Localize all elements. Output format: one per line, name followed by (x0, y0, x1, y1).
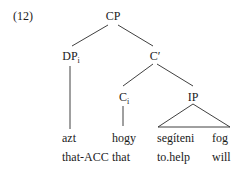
gloss-azt: that-ACC (62, 150, 109, 164)
node-ip-label: IP (188, 90, 199, 104)
word-hogy: hogy (112, 131, 136, 145)
branch-cp-dp (72, 25, 108, 46)
word-segiteni: segíteni (157, 131, 194, 145)
node-cp-label: CP (106, 9, 121, 23)
node-dp-label: DP (62, 49, 77, 63)
gloss-hogy: that (112, 150, 130, 164)
word-fog: fog (212, 131, 228, 145)
node-cbar-label: C′ (150, 49, 161, 63)
node-ip: IP (188, 90, 199, 104)
node-cbar: C′ (150, 49, 161, 63)
node-cp: CP (106, 9, 121, 23)
branch-cbar-ip (157, 64, 193, 86)
node-c-index: i (127, 97, 129, 106)
branch-cbar-c (123, 64, 153, 86)
gloss-segiteni: to.help (157, 150, 190, 164)
branch-cp-cbar (118, 25, 153, 46)
word-azt: azt (62, 131, 76, 145)
gloss-fog: will (212, 150, 231, 164)
node-c: Ci (119, 90, 129, 106)
node-c-label: C (119, 90, 127, 104)
tree-branches (0, 0, 245, 171)
node-dp: DPi (62, 49, 80, 65)
ip-triangle (158, 104, 230, 127)
node-dp-index: i (78, 56, 80, 65)
